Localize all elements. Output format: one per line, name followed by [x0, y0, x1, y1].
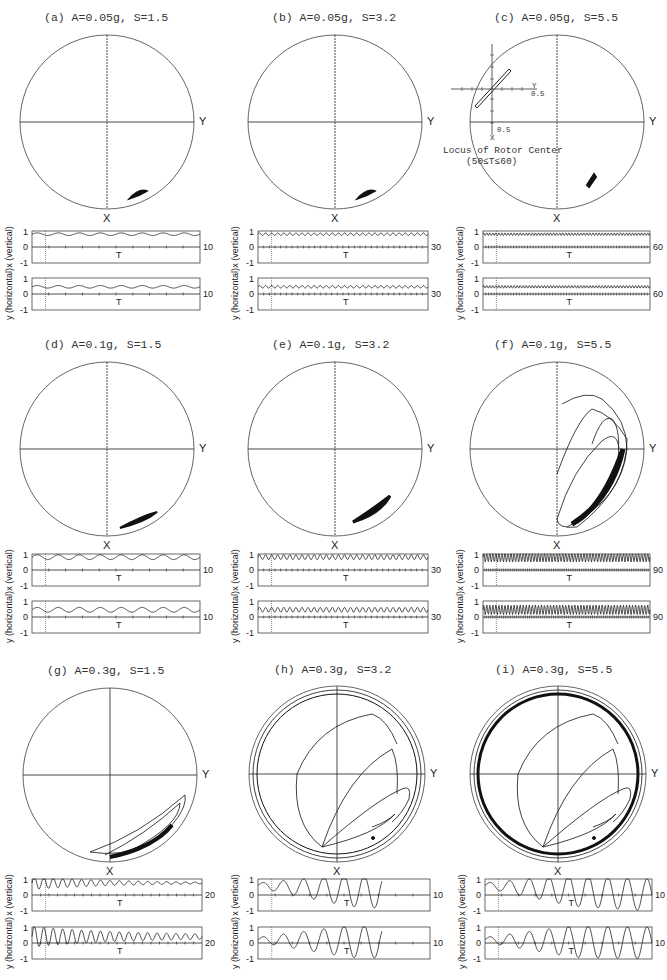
- ytick-0: 0: [474, 565, 479, 575]
- x-axis-label: X: [331, 212, 339, 224]
- waveform-x: [32, 555, 200, 560]
- ytick-1: 1: [23, 550, 28, 560]
- ytick-1: 1: [249, 923, 254, 933]
- ytick-0: 0: [23, 565, 28, 575]
- ytick-0: 0: [249, 890, 254, 900]
- t-axis-label: T: [344, 898, 350, 908]
- y-plot-label: y (horizontal): [4, 591, 14, 643]
- ytick-0: 0: [249, 938, 254, 948]
- y-axis-label: Y: [199, 442, 207, 454]
- rotor-center-inset: Y0.50.5XLocus of Rotor Center(50≤T≤60): [443, 44, 563, 167]
- time-history-y: 10-1T30y (horizontal): [230, 591, 441, 643]
- ytick-0: 0: [23, 938, 28, 948]
- rotor-locus: [353, 496, 390, 522]
- panel-g: (g) A=0.3g, S=1.5YX10-1T20x (vertical)10…: [4, 664, 215, 969]
- waveform-x: [32, 233, 200, 236]
- time-history-x: 10-1T10x (vertical): [230, 874, 443, 916]
- waveform-x: [483, 233, 650, 236]
- time-history-x: 10-1T10x (vertical): [4, 549, 213, 591]
- ytick-neg1: -1: [471, 305, 479, 315]
- time-history-y: 10-1T10y (horizontal): [457, 917, 665, 969]
- ytick-neg1: -1: [471, 258, 479, 268]
- inset-x-label: X: [490, 134, 495, 142]
- y-plot-label: y (horizontal): [230, 591, 240, 643]
- waveform-y: [258, 286, 428, 289]
- x-axis-label: X: [553, 212, 561, 224]
- panel-d: (d) A=0.1g, S=1.5YX10-1T10x (vertical)10…: [4, 338, 213, 643]
- t-axis-label: T: [343, 620, 349, 630]
- ytick-neg1: -1: [20, 305, 28, 315]
- waveform-y: [483, 605, 650, 615]
- y-axis-label: Y: [427, 115, 435, 127]
- t-end-label: 30: [431, 242, 441, 252]
- t-axis-label: T: [116, 620, 122, 630]
- ytick-1: 1: [474, 227, 479, 237]
- panel-title: (c) A=0.05g, S=5.5: [494, 11, 618, 24]
- t-axis-label: T: [343, 573, 349, 583]
- waveform-x: [258, 555, 428, 560]
- waveform-y: [32, 286, 200, 289]
- ytick-1: 1: [249, 227, 254, 237]
- ytick-0: 0: [249, 612, 254, 622]
- time-history-y: 10-1T90y (horizontal): [455, 591, 663, 643]
- panel-c: (c) A=0.05g, S=5.5YXY0.50.5XLocus of Rot…: [443, 11, 663, 320]
- t-axis-label: T: [343, 250, 349, 260]
- ytick-1: 1: [249, 550, 254, 560]
- t-axis-label: T: [117, 898, 123, 908]
- t-end-label: 10: [433, 890, 443, 900]
- t-end-label: 20: [205, 890, 215, 900]
- t-end-label: 10: [655, 938, 665, 948]
- time-history-x: 10-1T30x (vertical): [230, 549, 441, 591]
- waveform-x: [258, 879, 382, 908]
- panel-h: (h) A=0.3g, S=3.2YX10-1T10x (vertical)10…: [230, 663, 443, 969]
- ytick-1: 1: [23, 597, 28, 607]
- ytick-neg1: -1: [246, 305, 254, 315]
- panel-title: (f) A=0.1g, S=5.5: [494, 338, 611, 351]
- x-axis-label: X: [333, 865, 341, 877]
- t-axis-label: T: [569, 946, 575, 956]
- x-axis-label: X: [554, 865, 562, 877]
- t-axis-label: T: [567, 620, 573, 630]
- panel-title: (d) A=0.1g, S=1.5: [44, 338, 161, 351]
- ytick-0: 0: [23, 242, 28, 252]
- x-plot-label: x (vertical): [455, 549, 465, 591]
- waveform-y: [258, 607, 428, 612]
- time-history-y: 10-1T10y (horizontal): [4, 591, 213, 643]
- t-axis-label: T: [569, 898, 575, 908]
- ytick-1: 1: [249, 875, 254, 885]
- time-history-x: 10-1T30x (vertical): [230, 226, 441, 268]
- panel-title: (e) A=0.1g, S=3.2: [272, 338, 389, 351]
- y-plot-label: y (horizontal): [455, 268, 465, 320]
- t-axis-label: T: [116, 250, 122, 260]
- x-axis-label: X: [553, 539, 561, 551]
- ytick-neg1: -1: [20, 581, 28, 591]
- t-axis-label: T: [116, 573, 122, 583]
- x-plot-label: x (vertical): [455, 226, 465, 268]
- inset-x-tick: 0.5: [497, 126, 511, 134]
- rotor-locus: [120, 512, 157, 528]
- y-axis-label: Y: [649, 442, 657, 454]
- rotor-locus: [357, 190, 375, 199]
- ytick-0: 0: [474, 612, 479, 622]
- inset-caption: Locus of Rotor Center: [443, 145, 563, 156]
- t-end-label: 30: [431, 565, 441, 575]
- time-history-x: 10-1T60x (vertical): [455, 226, 663, 268]
- waveform-y: [32, 607, 200, 612]
- x-plot-label: x (vertical): [457, 874, 467, 916]
- time-history-y: 10-1T10y (horizontal): [230, 917, 443, 969]
- x-plot-label: x (vertical): [4, 549, 14, 591]
- t-end-label: 20: [205, 938, 215, 948]
- t-axis-label: T: [343, 297, 349, 307]
- rotor-locus: [90, 795, 185, 857]
- panel-f: (f) A=0.1g, S=5.5YX10-1T90x (vertical)10…: [455, 338, 663, 643]
- t-end-label: 10: [203, 565, 213, 575]
- ytick-neg1: -1: [473, 954, 481, 964]
- y-plot-label: y (horizontal): [4, 268, 14, 320]
- t-end-label: 30: [431, 612, 441, 622]
- ytick-1: 1: [474, 274, 479, 284]
- waveform-y: [483, 286, 650, 289]
- t-end-label: 90: [653, 612, 663, 622]
- panel-a: (a) A=0.05g, S=1.5YX10-1T10x (vertical)1…: [4, 11, 213, 320]
- panel-title: (g) A=0.3g, S=1.5: [47, 664, 164, 677]
- panel-title: (i) A=0.3g, S=5.5: [495, 663, 612, 676]
